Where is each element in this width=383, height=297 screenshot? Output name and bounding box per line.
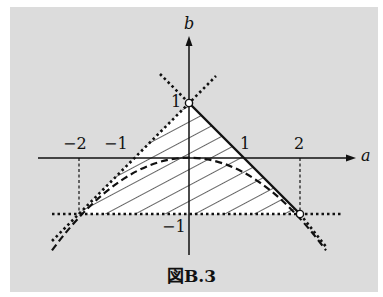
a-axis-label: a [361, 148, 371, 164]
figure-caption: 図B.3 [0, 262, 383, 287]
point-2-minus-1 [296, 210, 303, 217]
line-b-1-minus-a-ext-lower [300, 214, 327, 248]
x-tick-2: 2 [294, 136, 304, 152]
b-axis-arrow-icon [186, 36, 193, 46]
b-axis-label: b [184, 16, 194, 32]
coordinate-plot [0, 0, 383, 297]
y-tick-minus-1: −1 [162, 219, 186, 235]
x-tick-1: 1 [240, 136, 250, 152]
point-0-1 [185, 99, 192, 106]
x-tick-minus-2: −2 [63, 136, 87, 152]
a-axis-arrow-icon [346, 155, 356, 162]
x-tick-minus-1: −1 [104, 136, 128, 152]
y-tick-1: 1 [171, 94, 181, 110]
